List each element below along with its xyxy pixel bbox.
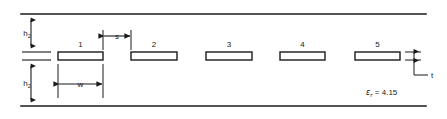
conductor-strip: [206, 52, 252, 60]
substrate-interface-ticks: [22, 52, 51, 60]
strip-number-label: 2: [152, 40, 157, 49]
dimension-label-w: w: [77, 80, 84, 89]
conductor-strip: [280, 52, 325, 60]
dimension-t: [405, 52, 428, 76]
conductor-strips: [58, 52, 400, 60]
conductor-strip: [131, 52, 177, 60]
dimension-label-h2-upper: h2: [23, 29, 31, 39]
strip-number-label: 5: [375, 40, 380, 49]
strip-number-label: 4: [300, 40, 305, 49]
permittivity-annotation: εr = 4.15: [366, 88, 398, 98]
dimension-label-h2-lower: h2: [23, 79, 31, 89]
microstrip-cross-section-figure: h2 h2 s w t 1 2 3 4 5 εr = 4.15: [0, 0, 447, 119]
strip-number-label: 1: [78, 40, 83, 49]
dimension-label-s: s: [115, 32, 119, 41]
strip-number-label: 3: [227, 40, 232, 49]
conductor-strip: [58, 52, 103, 60]
diagram-canvas: h2 h2 s w t 1 2 3 4 5 εr = 4.15: [0, 0, 447, 119]
dimension-label-t: t: [431, 71, 434, 80]
t-leader-line: [414, 60, 428, 75]
conductor-strip: [355, 52, 400, 60]
